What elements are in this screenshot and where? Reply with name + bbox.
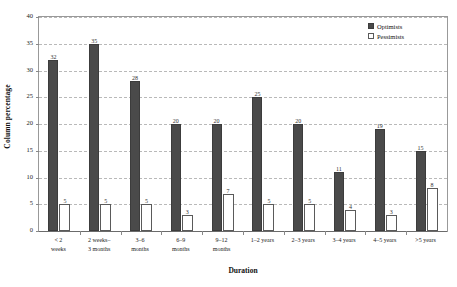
category-separator [406,231,407,235]
bar-value-label: 5 [63,198,66,204]
legend-item-label: Optimists [377,23,402,30]
x-axis-title: Duration [38,266,448,275]
y-tick-label-0: 0 [3,227,33,234]
bar-optimists: 28 [130,81,140,231]
bar-group: 325 [39,17,80,231]
bar-group: 205 [284,17,325,231]
y-tick-label-5: 5 [3,200,33,207]
chart-legend: OptimistsPessimists [366,20,446,42]
y-tick-label-20: 20 [3,120,33,127]
category-separator [243,231,244,235]
x-axis-ticks: < 2weeks2 weeks–3 months3–6months6–9mont… [38,236,448,262]
bar-group: 285 [121,17,162,231]
x-tick-label: 2 weeks–3 months [79,236,120,253]
bar-pessimists: 5 [263,204,274,231]
bar-value-label: 3 [186,209,189,215]
y-tick-label-35: 35 [3,40,33,47]
y-tick-label-30: 30 [3,66,33,73]
bar-series-container: 325355285203207255205114193158 [39,17,447,231]
bar-value-label: 20 [173,118,179,124]
bar-pessimists: 5 [304,204,315,231]
x-tick-label: 3–4 years [324,236,365,245]
category-separator [325,231,326,235]
bar-optimists: 19 [375,129,385,231]
bar-group: 255 [243,17,284,231]
grouped-bar-chart: Column percentage 3253552852032072552051… [0,0,457,287]
x-tick-label-line: < 2 [38,236,79,245]
category-separator [202,231,203,235]
bar-value-label: 7 [227,188,230,194]
bar-value-label: 25 [254,91,260,97]
bar-value-label: 35 [91,38,97,44]
bar-value-label: 20 [214,118,220,124]
y-tick-label-15: 15 [3,147,33,154]
bar-value-label: 5 [308,198,311,204]
bar-value-label: 5 [104,198,107,204]
x-tick-label-line: 3–4 years [324,236,365,245]
bar-optimists: 11 [334,172,344,231]
bar-value-label: 4 [349,204,352,210]
x-tick-label-line: months [120,245,161,254]
x-tick-label-line: 2 weeks– [79,236,120,245]
x-tick-label-line: months [160,245,201,254]
bar-pessimists: 5 [100,204,111,231]
x-tick-label-line: 3–6 [120,236,161,245]
x-tick-label: 4–5 years [364,236,405,245]
x-tick-label-line: 6–9 [160,236,201,245]
bar-group: 203 [161,17,202,231]
bar-value-label: 28 [132,75,138,81]
outlined-square-icon [368,33,374,39]
y-tick-label-10: 10 [3,173,33,180]
x-tick-label-line: >5 years [405,236,446,245]
plot-inner: 325355285203207255205114193158 [39,17,447,231]
legend-item-pessimists[interactable]: Pessimists [368,31,444,41]
bar-group: 207 [202,17,243,231]
bar-pessimists: 8 [427,188,438,231]
x-tick-label: 6–9months [160,236,201,253]
bar-pessimists: 7 [223,194,234,231]
x-tick-label-line: months [201,245,242,254]
bar-value-label: 20 [295,118,301,124]
y-tick-mark-0 [36,231,39,232]
bar-optimists: 25 [252,97,262,231]
bar-value-label: 5 [267,198,270,204]
filled-square-icon [368,23,374,29]
legend-item-optimists[interactable]: Optimists [368,21,444,31]
bar-pessimists: 4 [345,210,356,231]
x-tick-label-line: 9–12 [201,236,242,245]
bar-group: 158 [406,17,447,231]
bar-optimists: 20 [212,124,222,231]
x-tick-label-line: 3 months [79,245,120,254]
bar-value-label: 8 [431,182,434,188]
category-separator [80,231,81,235]
bar-pessimists: 3 [386,215,397,231]
bar-group: 355 [80,17,121,231]
y-tick-label-25: 25 [3,93,33,100]
x-tick-label: 9–12months [201,236,242,253]
bar-group: 193 [365,17,406,231]
bar-value-label: 3 [390,209,393,215]
x-tick-label: < 2weeks [38,236,79,253]
y-tick-label-40: 40 [3,13,33,20]
bar-optimists: 20 [171,124,181,231]
x-tick-label: >5 years [405,236,446,245]
bar-optimists: 35 [89,44,99,231]
category-separator [365,231,366,235]
bar-value-label: 11 [336,166,342,172]
plot-area: 325355285203207255205114193158 [38,16,448,232]
category-separator [161,231,162,235]
bar-optimists: 15 [416,151,426,231]
x-tick-label: 1–2 years [242,236,283,245]
bar-pessimists: 5 [59,204,70,231]
x-tick-label: 2–3 years [283,236,324,245]
bar-value-label: 15 [418,145,424,151]
x-tick-label-line: weeks [38,245,79,254]
bar-optimists: 20 [293,124,303,231]
bar-value-label: 19 [377,123,383,129]
legend-item-label: Pessimists [377,33,404,40]
category-separator [284,231,285,235]
bar-value-label: 5 [145,198,148,204]
x-tick-label-line: 2–3 years [283,236,324,245]
y-axis-title: Column percentage [0,0,14,232]
bar-group: 114 [325,17,366,231]
